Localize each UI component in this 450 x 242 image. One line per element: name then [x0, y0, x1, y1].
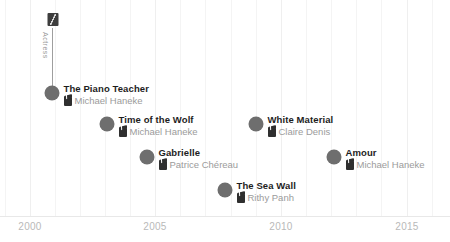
event-title: White Material	[268, 114, 334, 125]
event-subtitle: Michael Haneke	[346, 159, 425, 171]
person-badge-icon	[48, 13, 59, 26]
gridline	[331, 0, 332, 216]
x-axis-tick-2015: 2015	[395, 221, 418, 232]
gridline	[356, 0, 357, 216]
event-director: Claire Denis	[279, 126, 331, 138]
annotation-stem	[52, 28, 53, 93]
event-dot[interactable]	[100, 117, 115, 132]
x-axis-line	[0, 216, 450, 217]
event-director: Patrice Chéreau	[170, 159, 239, 171]
event-dot[interactable]	[218, 183, 233, 198]
gridline	[5, 0, 6, 216]
clapperboard-icon	[64, 97, 72, 106]
gridline	[105, 0, 106, 216]
event-dot[interactable]	[140, 150, 155, 165]
gridline	[231, 0, 232, 216]
gridline	[180, 0, 181, 216]
event-subtitle: Rithy Panh	[237, 192, 296, 204]
gridline	[306, 0, 307, 216]
x-axis-tick-2010: 2010	[269, 221, 292, 232]
event-subtitle: Claire Denis	[268, 126, 334, 138]
clapperboard-icon	[119, 128, 127, 137]
annotation-label: Actress	[42, 32, 49, 59]
clapperboard-icon	[346, 161, 354, 170]
event-director: Michael Haneke	[130, 126, 198, 138]
x-axis-tick-2000: 2000	[18, 221, 41, 232]
event-text: The Piano TeacherMichael Haneke	[64, 83, 149, 107]
event-director: Michael Haneke	[357, 159, 425, 171]
gridline	[407, 0, 408, 216]
event-title: The Piano Teacher	[64, 83, 149, 94]
event-text: Time of the WolfMichael Haneke	[119, 114, 198, 138]
clapperboard-icon	[237, 194, 245, 203]
event-text: AmourMichael Haneke	[346, 147, 425, 171]
gridline	[155, 0, 156, 216]
gridline	[80, 0, 81, 216]
gridline	[130, 0, 131, 216]
x-axis-tick-2005: 2005	[143, 221, 166, 232]
event-text: GabriellePatrice Chéreau	[159, 147, 239, 171]
event-dot[interactable]	[249, 117, 264, 132]
timeline-chart: 2000200520102015 Actress The Piano Teach…	[0, 0, 450, 242]
clapperboard-icon	[268, 128, 276, 137]
event-title: Gabrielle	[159, 147, 239, 158]
event-title: The Sea Wall	[237, 180, 296, 191]
event-text: The Sea WallRithy Panh	[237, 180, 296, 204]
event-dot[interactable]	[327, 150, 342, 165]
gridline	[205, 0, 206, 216]
event-subtitle: Patrice Chéreau	[159, 159, 239, 171]
gridline	[381, 0, 382, 216]
gridline	[55, 0, 56, 216]
gridline	[30, 0, 31, 216]
clapperboard-icon	[159, 161, 167, 170]
event-dot[interactable]	[45, 86, 60, 101]
event-subtitle: Michael Haneke	[119, 126, 198, 138]
event-title: Amour	[346, 147, 425, 158]
event-subtitle: Michael Haneke	[64, 95, 149, 107]
gridline	[432, 0, 433, 216]
event-director: Rithy Panh	[248, 192, 294, 204]
event-title: Time of the Wolf	[119, 114, 198, 125]
event-director: Michael Haneke	[75, 95, 143, 107]
event-text: White MaterialClaire Denis	[268, 114, 334, 138]
